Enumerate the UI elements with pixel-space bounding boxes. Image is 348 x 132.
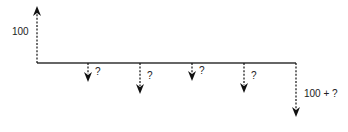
arrow-down-icon xyxy=(292,107,300,117)
arrow-down-icon xyxy=(240,83,248,93)
arrow-down-icon xyxy=(188,71,196,81)
arrow-down-icon xyxy=(84,72,92,82)
outflow-arrow-4 xyxy=(240,63,248,93)
outflow-label-final: 100 + ? xyxy=(304,89,338,99)
outflow-arrow-3 xyxy=(188,63,196,81)
outflow-label-1: ? xyxy=(95,67,101,77)
inflow-label: 100 xyxy=(12,27,29,37)
outflow-arrow-1 xyxy=(84,63,92,82)
outflow-label-4: ? xyxy=(251,71,257,81)
cash-flow-diagram xyxy=(0,0,348,132)
inflow-arrow xyxy=(33,6,41,63)
outflow-arrow-2 xyxy=(136,63,144,94)
outflow-label-3: ? xyxy=(199,66,205,76)
outflow-arrow-5 xyxy=(292,63,300,117)
outflow-label-2: ? xyxy=(147,71,153,81)
